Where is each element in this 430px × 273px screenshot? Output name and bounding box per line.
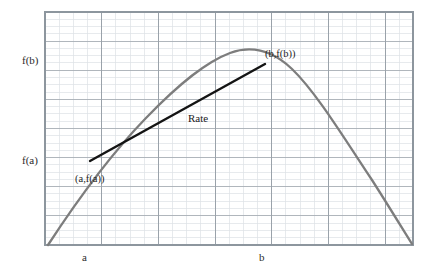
rate-annotation-label: Rate xyxy=(188,112,208,124)
y-tick-label-fa: f(a) xyxy=(22,154,38,167)
point-label-a: (a,f(a)) xyxy=(75,173,105,185)
point-label-b: (b,f(b)) xyxy=(265,48,296,60)
x-tick-label-b: b xyxy=(259,251,265,263)
figure-container: f(b) f(a) a b (b,f(b)) (a,f(a)) Rate xyxy=(0,0,430,273)
x-tick-label-a: a xyxy=(82,251,87,263)
y-tick-label-fb: f(b) xyxy=(22,54,39,67)
graph-canvas: f(b) f(a) a b (b,f(b)) (a,f(a)) Rate xyxy=(0,0,430,273)
